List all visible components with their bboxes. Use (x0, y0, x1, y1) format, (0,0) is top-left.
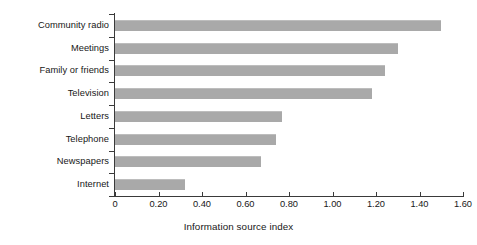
category-label: Letters (0, 111, 109, 122)
category-label: Telephone (0, 134, 109, 145)
x-axis-title: Information source index (0, 221, 477, 233)
x-axis-tick (246, 192, 247, 197)
y-axis-tick (109, 105, 114, 106)
y-axis-tick (109, 82, 114, 83)
y-axis-tick (109, 151, 114, 152)
y-axis-tick (109, 14, 114, 15)
x-axis-tick-label: 0.60 (236, 199, 254, 210)
y-axis-line (114, 13, 115, 197)
x-axis-tick-label: 0.80 (280, 199, 298, 210)
category-label: Meetings (0, 43, 109, 54)
x-axis-tick-label: 1.20 (367, 199, 385, 210)
category-label: Television (0, 88, 109, 99)
x-axis-tick-label: 1.60 (454, 199, 472, 210)
category-label: Internet (0, 179, 109, 190)
bar-chart: Community radioMeetingsFamily or friends… (0, 0, 477, 245)
category-label: Family or friends (0, 65, 109, 76)
x-axis-tick-label: 0.40 (193, 199, 211, 210)
category-label: Newspapers (0, 156, 109, 167)
y-axis-tick (109, 128, 114, 129)
bar (115, 20, 441, 31)
y-axis-tick (109, 60, 114, 61)
y-axis-tick (109, 173, 114, 174)
bar (115, 134, 276, 145)
category-label: Community radio (0, 20, 109, 31)
x-axis-tick (463, 192, 464, 197)
x-axis-tick-label: 1.40 (410, 199, 428, 210)
x-axis-tick-label: 1.00 (323, 199, 341, 210)
x-axis-tick (420, 192, 421, 197)
bar (115, 156, 261, 167)
x-axis-tick (202, 192, 203, 197)
x-axis-tick (289, 192, 290, 197)
bar (115, 43, 398, 54)
plot-area (115, 14, 463, 196)
x-axis-tick (376, 192, 377, 197)
x-axis-tick-label: 0 (112, 199, 117, 210)
y-axis-tick (109, 37, 114, 38)
bar (115, 111, 282, 122)
x-axis-tick (159, 192, 160, 197)
bar (115, 179, 185, 190)
category-axis-labels: Community radioMeetingsFamily or friends… (0, 14, 112, 196)
y-axis-tick (109, 196, 114, 197)
bar (115, 65, 385, 76)
bar (115, 88, 372, 99)
x-axis-tick (115, 192, 116, 197)
x-axis-tick (333, 192, 334, 197)
x-axis-tick-label: 0.20 (149, 199, 167, 210)
